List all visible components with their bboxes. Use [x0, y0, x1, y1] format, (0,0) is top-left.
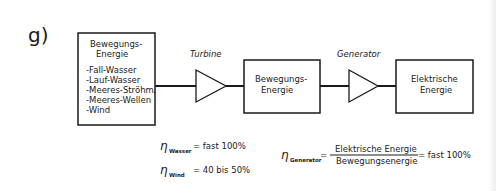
turbine-triangle-icon: [196, 70, 226, 102]
eta-subscript-generator: Generator: [290, 157, 322, 163]
wind-efficiency-value: = 40 bis 50%: [193, 165, 250, 175]
mechanical-title-line2: Energie: [261, 85, 293, 95]
equals-sign: =: [320, 150, 327, 160]
efficiency-generator: η Generator = Elektrische Energie Bewegu…: [281, 144, 471, 166]
turbine-label: Turbine: [190, 49, 222, 59]
efficiency-water: η Wasser = fast 100%: [160, 139, 246, 154]
eta-symbol: η: [160, 139, 168, 153]
source-item-meeres-stroem: -Meeres-Ströhm.: [86, 85, 157, 95]
mechanical-title-line1: Bewegungs-: [255, 74, 307, 84]
electrical-title-line2: Energie: [420, 85, 452, 95]
water-efficiency-value: = fast 100%: [193, 141, 246, 151]
source-title-line1: Bewegungs-: [90, 39, 142, 49]
section-label: g): [28, 23, 49, 47]
eta-subscript-wasser: Wasser: [169, 148, 192, 154]
fraction-numerator: Elektrische Energie: [335, 144, 417, 154]
source-item-fall-wasser: -Fall-Wasser: [86, 65, 137, 75]
energy-conversion-diagram: g) Bewegungs- Energie -Fall-Wasser -Lauf…: [0, 0, 496, 191]
generator-triangle-icon: [349, 70, 378, 102]
eta-symbol: η: [160, 163, 168, 177]
generator-efficiency-value: = fast 100%: [418, 150, 471, 160]
source-item-lauf-wasser: -Lauf-Wasser: [86, 75, 141, 85]
source-title-line2: Energie: [96, 49, 128, 59]
generator-label: Generator: [337, 49, 381, 59]
efficiency-wind: η Wind = 40 bis 50%: [160, 163, 250, 178]
fraction-denominator: Bewegungsenergie: [336, 156, 417, 166]
eta-subscript-wind: Wind: [169, 172, 185, 178]
eta-symbol: η: [281, 148, 289, 162]
electrical-title-line1: Elektrische: [411, 74, 458, 84]
source-item-wind: -Wind: [86, 105, 110, 115]
page-edge-shadow: [488, 0, 496, 191]
source-item-meeres-wellen: -Meeres-Wellen: [86, 95, 151, 105]
